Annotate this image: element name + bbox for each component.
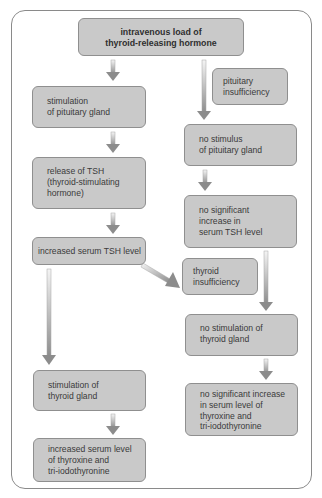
node-increased-tsh: increased serum TSH level [32, 237, 146, 265]
node-label: no stimulus of pituitary gland [199, 134, 262, 156]
arrow-stim-thyroid-to-increased-t4t3 [106, 414, 120, 435]
node-label: no stimulation of thyroid gland [200, 323, 263, 345]
arrow-increased-tsh-to-stim-thyroid [42, 269, 56, 365]
node-label: no significant increase in serum level o… [200, 389, 285, 432]
node-no-increase-t4t3: no significant increase in serum level o… [185, 383, 298, 436]
node-no-stimulation-thyroid: no stimulation of thyroid gland [185, 314, 298, 356]
node-label: thyroid insufficiency [193, 266, 240, 288]
node-thyroid-insufficiency: thyroid insufficiency [182, 258, 258, 295]
node-increased-t4t3: increased serum level of thyroxine and t… [33, 438, 146, 482]
node-label: intravenous load of thyroid-releasing ho… [79, 27, 243, 49]
node-label: stimulation of pituitary gland [47, 96, 110, 118]
arrow-no-stim-pituitary-to-no-increase-tsh [198, 170, 212, 191]
node-label: increased serum TSH level [38, 246, 141, 257]
node-label: no significant increase in serum TSH lev… [199, 205, 262, 237]
node-label: increased serum level of thyroxine and t… [48, 444, 132, 476]
node-no-increase-tsh: no significant increase in serum TSH lev… [184, 195, 297, 248]
arrow-no-increase-tsh-to-no-stim-thyroid [259, 251, 273, 311]
node-label: stimulation of thyroid gland [48, 380, 99, 402]
node-label: release of TSH (thyroid-stimulating horm… [47, 166, 120, 198]
arrow-top-to-no-stim-pituitary [197, 60, 211, 120]
node-pituitary-insufficiency: pituitary insufficiency [212, 68, 288, 105]
arrow-increased-tsh-to-thyroid-insufficiency [141, 263, 180, 288]
arrow-stim-pituitary-to-release-tsh [106, 132, 120, 153]
node-label: pituitary insufficiency [223, 76, 270, 98]
node-stimulation-pituitary: stimulation of pituitary gland [32, 86, 146, 128]
node-no-stimulus-pituitary: no stimulus of pituitary gland [184, 124, 297, 166]
node-release-tsh: release of TSH (thyroid-stimulating horm… [32, 157, 146, 209]
arrow-top-to-stim-pituitary [106, 60, 120, 81]
node-trh-load: intravenous load of thyroid-releasing ho… [78, 18, 244, 56]
arrow-release-tsh-to-increased-tsh [106, 213, 120, 234]
arrow-no-stim-thyroid-to-no-increase-t4t3 [259, 359, 273, 380]
node-stimulation-thyroid: stimulation of thyroid gland [33, 370, 146, 411]
